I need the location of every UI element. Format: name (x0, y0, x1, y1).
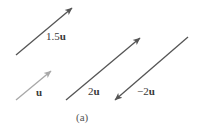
vector-arrow-u (16, 71, 51, 100)
vector-label-1.5u: 1.5u (46, 31, 66, 42)
vector-label-u: u (36, 87, 42, 98)
vector-scaling-diagram: 1.5u u 2u −2u (a) (0, 0, 197, 132)
vector-arrow-2u (66, 38, 140, 100)
figure-caption: (a) (76, 112, 88, 123)
vector-label-neg-2u: −2u (137, 86, 155, 97)
vector-label-2u: 2u (88, 86, 100, 97)
vector-drawing (0, 0, 197, 132)
